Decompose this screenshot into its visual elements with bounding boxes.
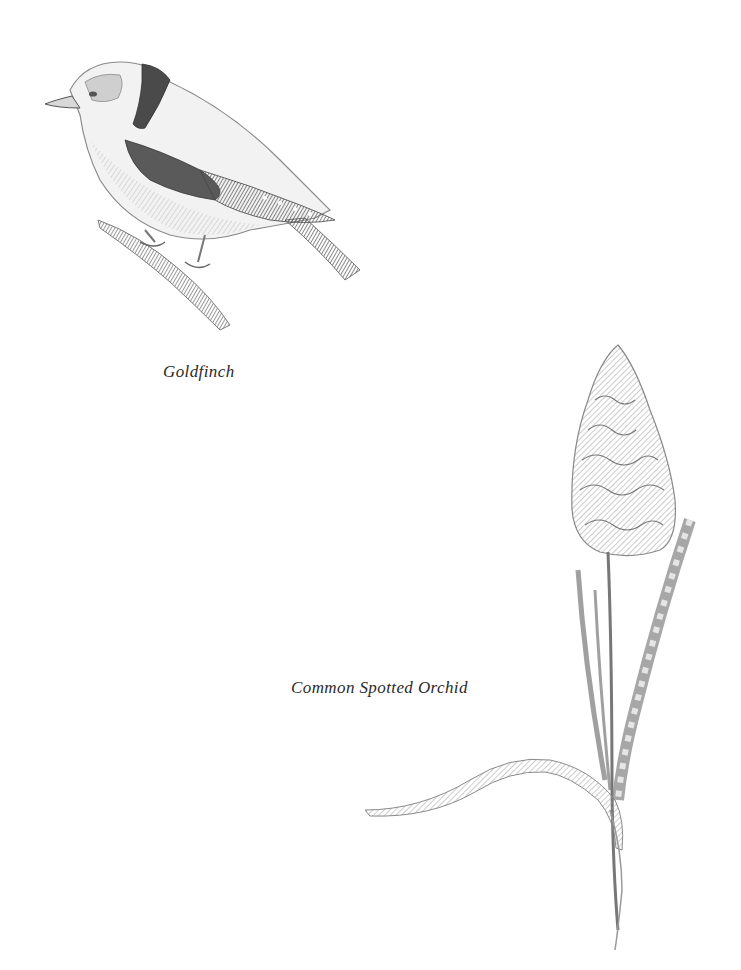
orchid-caption: Common Spotted Orchid xyxy=(291,678,468,698)
goldfinch-illustration xyxy=(30,20,380,340)
goldfinch-caption: Goldfinch xyxy=(163,362,235,382)
orchid-illustration xyxy=(360,330,720,960)
